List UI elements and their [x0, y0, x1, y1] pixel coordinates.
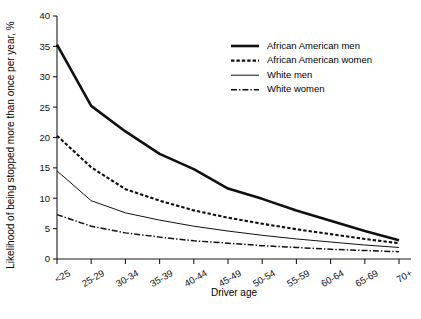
legend-label-1: African American women	[267, 54, 372, 65]
x-tick-label: 65-69	[353, 267, 380, 289]
legend-label-3: White women	[267, 83, 325, 94]
legend-label-2: White men	[267, 69, 312, 80]
x-tick-label: 55-59	[285, 267, 312, 289]
y-tick-label: 35	[39, 41, 50, 52]
chart-legend: African American menAfrican American wom…	[231, 40, 372, 95]
x-tick-label: 30-34	[114, 267, 141, 289]
y-axis-title-text: Likelihood of being stopped more than on…	[5, 21, 16, 268]
y-tick-label: 40	[39, 10, 50, 21]
y-tick-label: 0	[45, 253, 50, 264]
y-axis-ticks: 0510152025303540	[39, 10, 57, 264]
x-axis-title-text: Driver age	[211, 287, 258, 298]
x-tick-label: 40-44	[182, 267, 209, 289]
legend-label-0: African American men	[267, 40, 360, 51]
y-tick-label: 20	[39, 132, 50, 143]
x-axis-ticks: <2525-2930-3435-3940-4445-4950-5455-5960…	[53, 259, 415, 289]
x-tick-label: 25-29	[80, 267, 107, 289]
line-chart: Likelihood of being stopped more than on…	[0, 0, 421, 319]
x-tick-label: 60-64	[319, 267, 346, 289]
chart-container: Likelihood of being stopped more than on…	[0, 0, 421, 319]
x-tick-label: 50-54	[251, 267, 278, 289]
x-tick-label: <25	[53, 267, 72, 285]
y-tick-label: 25	[39, 102, 50, 113]
x-tick-label: 45-49	[216, 267, 243, 289]
y-tick-label: 30	[39, 71, 50, 82]
y-tick-label: 15	[39, 162, 50, 173]
series-line-0	[57, 45, 399, 241]
y-axis-title: Likelihood of being stopped more than on…	[5, 21, 16, 268]
series-line-3	[57, 215, 399, 252]
data-series-group	[57, 45, 399, 252]
y-tick-label: 10	[39, 193, 50, 204]
x-tick-label: 35-39	[148, 267, 175, 289]
y-tick-label: 5	[45, 223, 50, 234]
x-tick-label: 70+	[395, 267, 415, 285]
